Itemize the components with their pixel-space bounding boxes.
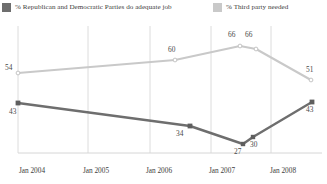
data-point-third-party-3	[254, 47, 258, 51]
data-label-third-party-4: 51	[306, 66, 313, 74]
series-line-two-party-adequate	[16, 100, 315, 147]
data-label-third-party-1: 60	[168, 46, 175, 54]
data-label-third-party-2: 66	[228, 31, 235, 39]
series-path-third-party-needed	[18, 46, 311, 80]
data-point-third-party-1	[173, 58, 177, 62]
data-point-two-party-3	[251, 135, 255, 139]
data-label-two-party-3: 30	[250, 141, 257, 149]
line-chart-third-party-sentiment: % Republican and Democratic Parties do a…	[0, 0, 327, 184]
data-label-two-party-1: 34	[176, 130, 183, 138]
x-tick-label-jan-2006: Jan 2006	[146, 166, 172, 175]
legend-swatch-third-party-needed	[213, 3, 222, 12]
data-point-two-party-4	[310, 100, 315, 105]
legend-item-two-party-adequate: % Republican and Democratic Parties do a…	[2, 3, 172, 12]
x-tick-label-jan-2005: Jan 2005	[83, 166, 109, 175]
series-path-two-party-adequate	[18, 102, 312, 144]
plot-area: 54 60 66 66 51 43 34 27 30 43	[0, 20, 327, 160]
series-line-third-party-needed	[16, 44, 313, 82]
data-point-two-party-0	[16, 101, 21, 106]
legend-label-two-party-adequate: % Republican and Democratic Parties do a…	[15, 3, 172, 12]
legend-label-third-party-needed: % Third party needed	[226, 3, 288, 12]
data-label-two-party-0: 43	[9, 108, 16, 116]
x-tick-label-jan-2007: Jan 2007	[209, 166, 235, 175]
legend-item-third-party-needed: % Third party needed	[213, 3, 288, 12]
data-point-third-party-0	[16, 71, 20, 75]
data-label-third-party-3: 66	[245, 31, 252, 39]
data-point-third-party-2	[238, 44, 242, 48]
data-label-two-party-2: 27	[234, 148, 241, 156]
data-label-two-party-4: 43	[306, 106, 313, 114]
gridlines-vertical	[18, 26, 271, 153]
x-tick-label-jan-2004: Jan 2004	[19, 166, 45, 175]
legend-swatch-two-party-adequate	[2, 3, 11, 12]
data-point-third-party-4	[309, 78, 313, 82]
data-label-third-party-0: 54	[5, 64, 12, 72]
x-axis: Jan 2004 Jan 2005 Jan 2006 Jan 2007 Jan …	[0, 162, 327, 184]
chart-legend: % Republican and Democratic Parties do a…	[0, 0, 327, 20]
plot-svg	[0, 20, 327, 160]
data-point-two-party-1	[188, 124, 193, 129]
x-tick-label-jan-2008: Jan 2008	[270, 166, 296, 175]
data-point-two-party-2	[241, 142, 245, 146]
